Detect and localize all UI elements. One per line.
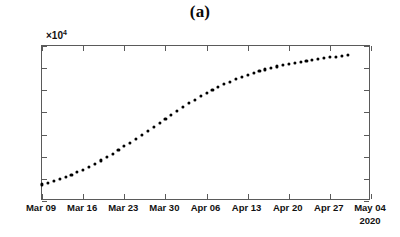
x-axis-tick-label: Apr 13 (232, 202, 262, 213)
x-axis-year-label: 2020 (359, 215, 380, 226)
x-axis-tick-label: Mar 23 (108, 202, 138, 213)
y-axis-exponent-power: 4 (63, 29, 67, 36)
y-axis-exponent-label: ×104 (46, 29, 67, 41)
y-axis-exponent-prefix: ×10 (46, 30, 63, 41)
x-axis-tick-label: Mar 16 (67, 202, 97, 213)
x-axis-tick-label: Mar 30 (149, 202, 179, 213)
x-axis-tick-label: May 04 (354, 202, 386, 213)
figure-panel: (a) ×104 01234567 Mar 09Mar 16Mar 23Mar … (0, 0, 400, 237)
x-axis-tick-labels: Mar 09Mar 16Mar 23Mar 30Apr 06Apr 13Apr … (0, 202, 400, 216)
x-axis-tick-label: Mar 09 (26, 202, 56, 213)
x-axis-tick-label: Apr 06 (191, 202, 221, 213)
x-axis-tick-label: Apr 27 (314, 202, 344, 213)
chart-title: (a) (0, 2, 400, 22)
y-axis-tick-labels: 01234567 (0, 45, 400, 200)
x-axis-tick-label: Apr 20 (273, 202, 303, 213)
